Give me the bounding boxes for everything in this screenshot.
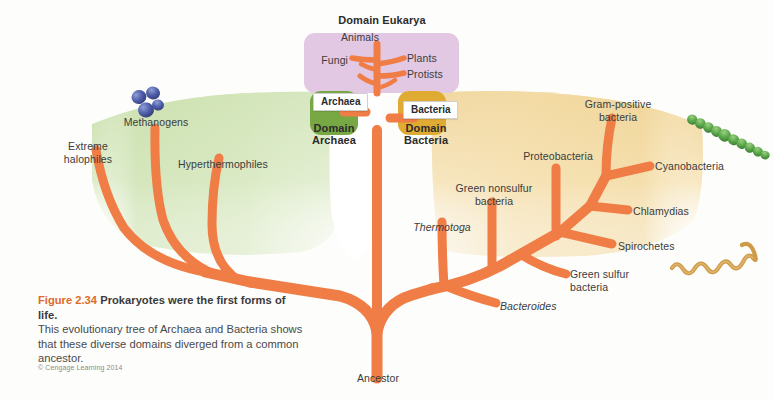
label-green-nonsulfur-line1: Green nonsulfur [448, 182, 540, 194]
figure-caption: Figure 2.34 Prokaryotes were the first f… [38, 293, 306, 366]
label-chlamydias: Chlamydias [633, 205, 713, 217]
label-green-sulfur-line2: bacteria [570, 281, 650, 293]
eukarya-label-fungi: Fungi [300, 54, 348, 66]
figure-canvas: Domain Eukarya Animals Fungi Plants Prot… [0, 0, 773, 400]
eukarya-label-animals: Animals [331, 31, 389, 43]
archaea-chip: Archaea [313, 93, 368, 111]
branch-chlamydias [590, 206, 628, 210]
domain-archaea-title-line2: Archaea [296, 134, 372, 147]
label-methanogens: Methanogens [108, 116, 204, 128]
label-green-nonsulfur-line2: bacteria [448, 195, 540, 207]
label-bacteroides: Bacteroides [500, 300, 576, 312]
copyright-notice: © Cengage Learning 2014 [38, 364, 123, 371]
label-green-sulfur-line1: Green sulfur [570, 268, 650, 280]
figure-body-line2: that these diverse domains diverged from… [38, 337, 306, 352]
label-hyperthermophiles: Hyperthermophiles [168, 158, 278, 170]
domain-bacteria-title-line2: Bacteria [388, 134, 464, 147]
label-thermotoga: Thermotoga [402, 221, 482, 233]
eukarya-label-protists: Protists [407, 68, 461, 80]
figure-number: Figure 2.34 [38, 294, 97, 306]
label-proteobacteria: Proteobacteria [512, 150, 604, 162]
figure-body-line1: This evolutionary tree of Archaea and Ba… [38, 322, 306, 337]
bacteria-lineage-stem [377, 289, 432, 332]
label-gram-positive-line1: Gram-positive [570, 98, 666, 110]
branch-protists [377, 73, 404, 76]
label-gram-positive-line2: bacteria [570, 111, 666, 123]
branch-bacteroides [446, 286, 496, 303]
label-spirochetes: Spirochetes [618, 240, 698, 252]
label-extreme-halophiles-line2: halophiles [46, 153, 130, 165]
domain-archaea-title-line1: Domain [296, 122, 372, 135]
bacteria-chip: Bacteria [403, 101, 458, 119]
label-ancestor: Ancestor [345, 372, 411, 384]
eukarya-label-plants: Plants [407, 52, 457, 64]
domain-eukarya-title: Domain Eukarya [308, 14, 456, 27]
label-cyanobacteria: Cyanobacteria [655, 160, 745, 172]
domain-bacteria-title-line1: Domain [388, 122, 464, 135]
branch-fungi [352, 58, 377, 60]
label-extreme-halophiles-line1: Extreme [46, 140, 130, 152]
